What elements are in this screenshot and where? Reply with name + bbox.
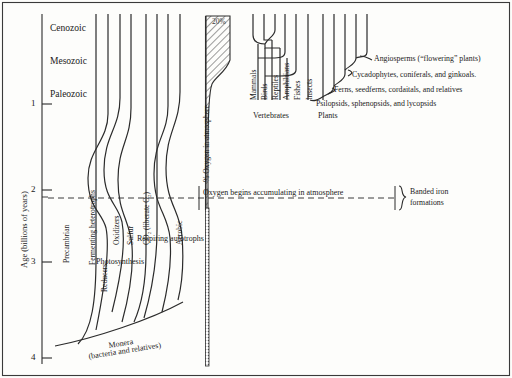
lineage-label-fermenting-heterotrophs: Fermenting heterotrophs bbox=[89, 190, 97, 265]
pointer-angiosperms bbox=[360, 56, 372, 60]
plant-group-psilopsids: Psilopsids, sphenopsids, and lycopsids bbox=[316, 100, 436, 108]
group-label-vertebrates: Vertebrates bbox=[253, 112, 289, 120]
oxygen-peak-label: 20% bbox=[212, 18, 226, 26]
axis-tick-1: 1 bbox=[31, 99, 36, 108]
y-axis bbox=[42, 14, 52, 364]
branch-birds bbox=[264, 14, 272, 40]
axis-tick-2: 2 bbox=[31, 185, 36, 194]
lineage-label-oxidizers: Oxidizers bbox=[113, 215, 121, 245]
plant-stem-e bbox=[356, 14, 367, 58]
oxygen-event-label: Oxygen begins accumulating in atmosphere bbox=[203, 189, 343, 197]
plant-group-ferns: Ferns, seedferns, cordaitals, and relati… bbox=[334, 86, 462, 94]
lineage-label-reducers: Reducers bbox=[101, 264, 109, 292]
era-paleozoic: Paleozoic bbox=[50, 90, 87, 100]
taxon-amphibians: Amphibians bbox=[283, 63, 291, 100]
axis-tick-3: 3 bbox=[31, 257, 36, 266]
banded-iron-label-line2: formations bbox=[410, 199, 444, 207]
era-mesozoic: Mesozoic bbox=[50, 57, 87, 67]
era-cenozoic: Cenozoic bbox=[50, 24, 86, 34]
lineage-label-sulfur: Sulfur bbox=[127, 226, 135, 245]
axis-tick-4: 4 bbox=[31, 353, 36, 362]
banded-iron-brace bbox=[399, 186, 406, 210]
plant-group-angiosperms: Angiosperms (“flowering” plants) bbox=[374, 55, 481, 63]
process-label-photosynthesis: Photosynthesis bbox=[96, 258, 144, 266]
plant-stem-c bbox=[334, 14, 345, 86]
branch-mammals bbox=[253, 14, 265, 44]
lineage-co2 bbox=[134, 14, 146, 322]
taxon-birds: Birds bbox=[261, 84, 269, 100]
banded-iron-label-line1: Banded iron bbox=[410, 188, 448, 196]
taxon-insects: Insects bbox=[306, 79, 314, 100]
group-label-plants: Plants bbox=[318, 112, 338, 120]
taxon-fishes: Fishes bbox=[294, 81, 302, 100]
era-precambrian: Precambrian bbox=[63, 225, 71, 263]
taxon-reptiles: Reptiles bbox=[272, 75, 280, 100]
plant-stem-b bbox=[324, 14, 334, 96]
oxygen-axis-label: % Oxygen in atmosphere bbox=[203, 105, 211, 182]
process-label-respiring-autotrophs: Respiring autotrophs bbox=[137, 235, 204, 243]
taxon-mammals: Mammals bbox=[250, 70, 258, 100]
plant-group-cycadophytes: Cycadophytes, coniferals, and ginkoals. bbox=[352, 71, 476, 79]
plant-stem-d bbox=[345, 14, 356, 70]
y-axis-title: Age (billions of years) bbox=[20, 191, 29, 268]
evolution-timeline-figure: Age (billions of years) 1 2 3 4 Cenozoic… bbox=[0, 0, 512, 378]
oxygen-stem bbox=[206, 208, 210, 366]
